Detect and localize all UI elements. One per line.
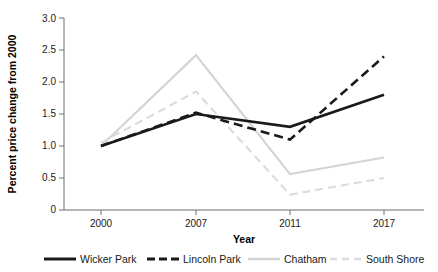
x-tick-label-2007: 2007 [185,218,208,229]
legend-label-south-shore: South Shore [366,253,425,265]
y-tick-label-3: 1.5 [42,108,56,119]
y-tick-marks [59,18,64,210]
chart-legend: Wicker Park Lincoln Park Chatham South S… [44,253,425,265]
y-tick-label-4: 2.0 [42,76,56,87]
x-axis-title: Year [233,233,255,245]
y-tick-label-5: 2.5 [42,44,56,55]
x-tick-label-2011: 2011 [279,218,301,229]
series-line-south-shore [101,92,384,195]
y-tick-labels: 0 0.5 1.0 1.5 2.0 2.5 3.0 [42,13,56,215]
legend-label-lincoln-park: Lincoln Park [183,253,242,265]
series-group [101,55,384,195]
y-tick-label-0: 0 [50,204,56,215]
x-tick-label-2000: 2000 [90,218,113,229]
legend-label-wicker-park: Wicker Park [80,253,137,265]
y-tick-label-1: 0.5 [42,172,56,183]
chart-container: Percent price change from 2000 0 0.5 1.0… [0,0,438,272]
x-tick-label-2017: 2017 [373,218,396,229]
x-tick-marks [101,210,384,215]
y-tick-label-6: 3.0 [42,13,56,24]
legend-label-chatham: Chatham [284,253,327,265]
y-axis-title: Percent price change from 2000 [6,34,18,193]
series-line-wicker-park [101,95,384,146]
series-line-chatham [101,55,384,174]
y-tick-label-2: 1.0 [42,140,56,151]
line-chart: Percent price change from 2000 0 0.5 1.0… [0,0,438,272]
x-tick-labels: 2000 2007 2011 2017 [90,218,396,229]
